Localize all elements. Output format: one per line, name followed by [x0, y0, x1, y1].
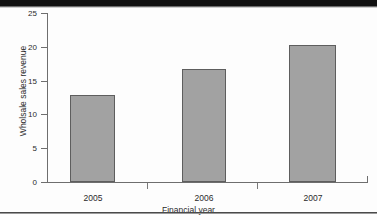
y-tick-20 — [41, 47, 47, 48]
x-axis-end-tick — [367, 176, 368, 183]
x-tick-label-2006: 2006 — [183, 193, 225, 203]
page-rule-bottom-shadow — [0, 213, 377, 214]
bar-2006[interactable] — [182, 69, 226, 182]
y-axis-line — [47, 13, 48, 183]
bar-2005[interactable] — [70, 95, 115, 182]
y-tick-label-0: 0 — [25, 178, 37, 187]
chart-page: 0 5 10 15 20 25 2005 2006 2007 Financial… — [0, 0, 377, 220]
y-tick-label-25: 25 — [21, 9, 37, 18]
y-tick-0 — [41, 182, 47, 183]
y-tick-10 — [41, 114, 47, 115]
x-tick-label-2007: 2007 — [291, 193, 335, 203]
bar-2007[interactable] — [289, 45, 336, 182]
bar-chart: 0 5 10 15 20 25 2005 2006 2007 Financial… — [0, 8, 377, 212]
x-tick-1 — [147, 183, 148, 189]
x-tick-label-2005: 2005 — [72, 193, 114, 203]
y-axis-title: Wholsale sales revenue — [18, 21, 28, 161]
y-tick-25 — [41, 13, 47, 14]
y-tick-5 — [41, 148, 47, 149]
x-axis-line — [41, 182, 368, 183]
x-tick-2 — [257, 183, 258, 189]
y-tick-15 — [41, 81, 47, 82]
